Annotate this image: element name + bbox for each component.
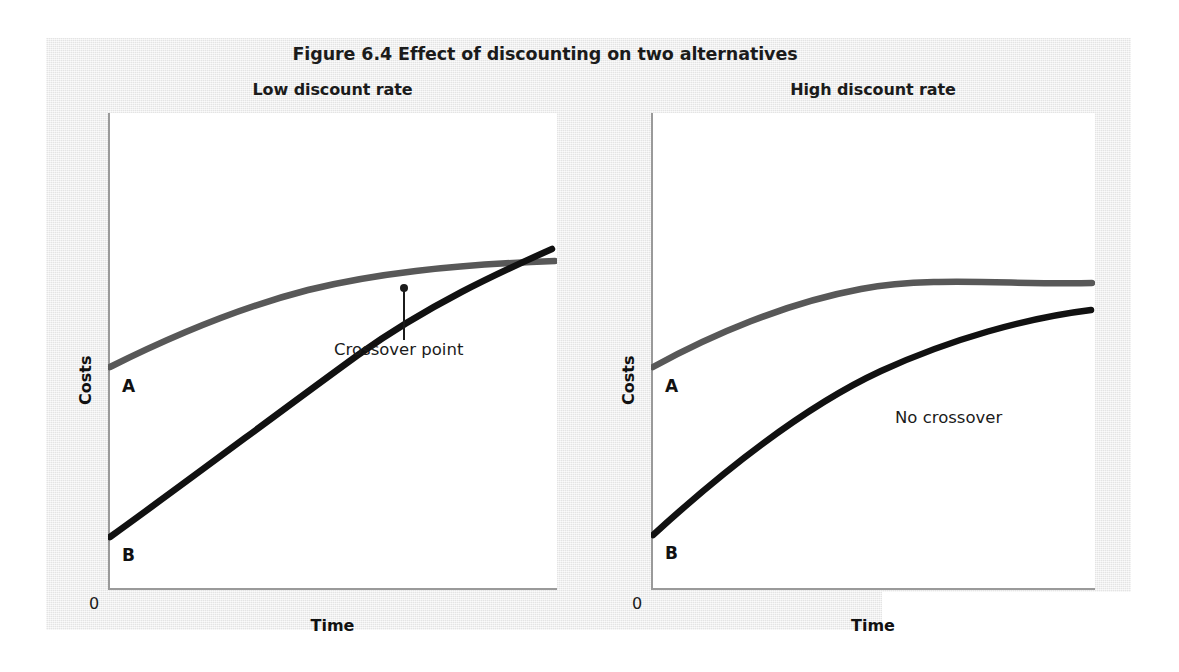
y-axis-title-left: Costs <box>76 356 95 405</box>
panel-subtitle-high-discount-rate: High discount rate <box>651 80 1095 99</box>
axes-lines <box>109 113 557 589</box>
panel-subtitle-low-discount-rate: Low discount rate <box>108 80 557 99</box>
curve-series-b <box>110 249 552 537</box>
chart-panel-low-discount-rate <box>108 113 557 590</box>
chart-panel-high-discount-rate <box>651 113 1095 590</box>
x-axis-title-left: Time <box>108 616 557 635</box>
series-label-a-left: A <box>122 376 135 396</box>
axes-lines <box>652 113 1095 589</box>
series-label-b-right: B <box>665 543 678 563</box>
series-label-b-left: B <box>122 545 135 565</box>
figure-title: Figure 6.4 Effect of discounting on two … <box>0 44 1090 64</box>
chart-svg-low-discount-rate <box>108 113 557 590</box>
series-label-a-right: A <box>665 376 678 396</box>
annotation-crossover-point: Crossover point <box>334 340 463 359</box>
curve-series-b <box>653 310 1091 535</box>
y-axis-title-right: Costs <box>619 356 638 405</box>
origin-label-left: 0 <box>89 594 99 613</box>
figure-page: Figure 6.4 Effect of discounting on two … <box>0 0 1179 672</box>
origin-label-right: 0 <box>632 594 642 613</box>
x-axis-title-right: Time <box>651 616 1095 635</box>
chart-svg-high-discount-rate <box>651 113 1095 590</box>
annotation-no-crossover: No crossover <box>895 408 1002 427</box>
